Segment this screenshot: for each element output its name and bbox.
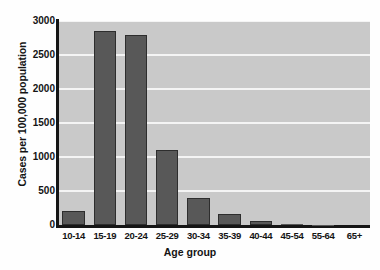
x-tick-label: 55-64 xyxy=(308,230,339,242)
x-tick-label: 25-29 xyxy=(152,230,183,242)
y-tick-label: 2500 xyxy=(24,50,55,60)
bar xyxy=(250,221,272,225)
y-tick-label: 1000 xyxy=(24,152,55,162)
x-axis-title: Age group xyxy=(0,246,380,258)
x-tick-label: 10-14 xyxy=(58,230,89,242)
bar xyxy=(281,224,303,225)
bar xyxy=(94,31,116,225)
bar-chart-figure: Cases per 100,000 population 05001000150… xyxy=(0,0,380,270)
x-tick-label: 30-34 xyxy=(183,230,214,242)
bar xyxy=(156,150,178,225)
bar-slot xyxy=(183,21,214,225)
bar-slot xyxy=(120,21,151,225)
bar-slot xyxy=(214,21,245,225)
bar xyxy=(218,214,240,225)
x-tick-label: 20-24 xyxy=(120,230,151,242)
x-tick-label: 65+ xyxy=(339,230,370,242)
y-tick-label: 0 xyxy=(24,220,55,230)
y-tick-label: 500 xyxy=(24,186,55,196)
x-tick-label: 40-44 xyxy=(245,230,276,242)
x-axis-tick-labels: 10-1415-1920-2425-2930-3435-3940-4445-54… xyxy=(58,230,370,246)
bar-slot xyxy=(276,21,307,225)
bar-slot xyxy=(339,21,370,225)
x-axis-line xyxy=(56,225,370,228)
bar xyxy=(62,211,84,225)
bar xyxy=(125,35,147,225)
bar-slot xyxy=(152,21,183,225)
bar-series xyxy=(58,21,370,225)
bar-slot xyxy=(245,21,276,225)
y-tick-label: 3000 xyxy=(24,16,55,26)
bar-slot xyxy=(308,21,339,225)
x-tick-label: 15-19 xyxy=(89,230,120,242)
y-axis-tick-labels: 050010001500200025003000 xyxy=(24,0,55,270)
x-tick-label: 45-54 xyxy=(276,230,307,242)
x-tick-label: 35-39 xyxy=(214,230,245,242)
bar xyxy=(187,198,209,225)
y-tick-label: 1500 xyxy=(24,118,55,128)
bar-slot xyxy=(58,21,89,225)
bar-slot xyxy=(89,21,120,225)
y-tick-label: 2000 xyxy=(24,84,55,94)
